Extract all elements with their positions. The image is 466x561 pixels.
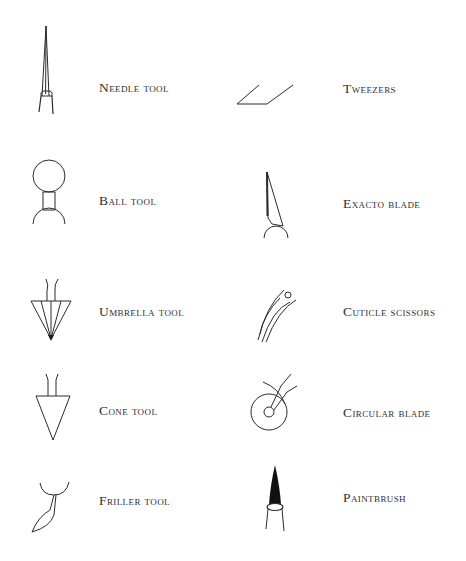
tool-label: Tweezers — [343, 81, 396, 97]
tool-label: Paintbrush — [343, 490, 406, 506]
tool-label: Cuticle scissors — [343, 304, 435, 320]
needle-tool-icon — [36, 24, 58, 116]
cuticle-scissors-icon — [254, 288, 298, 348]
tool-label: Exacto blade — [343, 196, 420, 212]
tool-label: Circular blade — [343, 405, 430, 421]
paintbrush-icon — [264, 465, 288, 531]
tool-label: Umbrella tool — [99, 304, 184, 320]
friller-tool-icon — [28, 481, 72, 535]
exacto-blade-icon — [264, 170, 292, 240]
tool-label: Ball tool — [99, 193, 156, 209]
tool-label: Needle tool — [99, 80, 169, 96]
tweezers-icon — [235, 82, 305, 114]
cone-tool-icon — [34, 374, 72, 442]
tool-label: Cone tool — [99, 403, 157, 419]
circular-blade-icon — [249, 374, 299, 434]
tool-label: Friller tool — [99, 493, 170, 509]
umbrella-tool-icon — [29, 279, 73, 343]
ball-tool-icon — [31, 160, 67, 226]
